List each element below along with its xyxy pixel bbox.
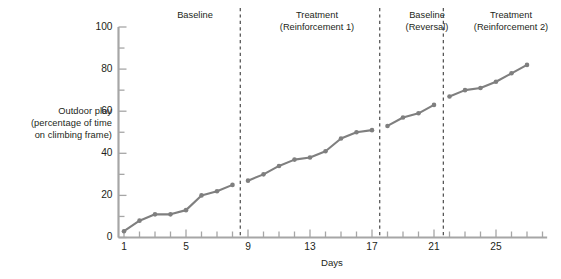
x-axis-tick-label: 25 — [483, 241, 509, 252]
data-point-marker — [153, 212, 158, 217]
x-axis-tick-label: 1 — [111, 241, 137, 252]
data-point-marker — [199, 193, 204, 198]
x-axis-tick-label: 13 — [297, 241, 323, 252]
data-point-marker — [230, 183, 235, 188]
x-axis-tick-label: 9 — [235, 241, 261, 252]
data-point-marker — [323, 149, 328, 154]
data-point-marker — [261, 172, 266, 177]
chart-figure: Outdoor play (percentage of time on clim… — [0, 0, 561, 279]
data-point-marker — [385, 124, 390, 129]
data-point-marker — [308, 155, 313, 160]
data-point-marker — [370, 128, 375, 133]
data-point-marker — [292, 157, 297, 162]
data-line-segment-4 — [450, 65, 528, 97]
data-point-marker — [478, 86, 483, 91]
data-point-marker — [184, 208, 189, 213]
data-point-marker — [246, 178, 251, 183]
x-axis-tick-label: 5 — [173, 241, 199, 252]
y-axis-tick-label: 80 — [85, 63, 113, 74]
y-axis-tick-label: 0 — [85, 231, 113, 242]
data-point-marker — [277, 164, 282, 169]
data-point-marker — [494, 79, 499, 84]
data-point-marker — [432, 103, 437, 108]
data-point-marker — [215, 189, 220, 194]
data-point-marker — [354, 130, 359, 135]
data-point-marker — [416, 111, 421, 116]
data-point-marker — [401, 115, 406, 120]
data-point-marker — [339, 136, 344, 141]
data-point-marker — [122, 229, 127, 234]
data-point-marker — [509, 71, 514, 76]
data-point-marker — [447, 94, 452, 99]
data-point-marker — [137, 218, 142, 223]
y-axis-tick-label: 40 — [85, 147, 113, 158]
y-axis-tick-label: 60 — [85, 105, 113, 116]
data-point-marker — [525, 63, 530, 68]
y-axis-tick-label: 100 — [85, 21, 113, 32]
x-axis-tick-label: 21 — [421, 241, 447, 252]
data-point-marker — [168, 212, 173, 217]
data-point-marker — [463, 88, 468, 93]
y-axis-tick-label: 20 — [85, 189, 113, 200]
data-line-segment-3 — [388, 105, 435, 126]
x-axis-tick-label: 17 — [359, 241, 385, 252]
